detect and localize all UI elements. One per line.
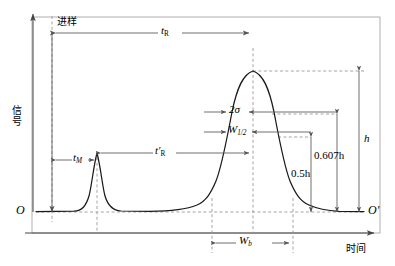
- w-half-base: W: [228, 123, 237, 135]
- tm-label: tM: [73, 152, 82, 165]
- y-axis-label: 信号: [8, 105, 23, 127]
- secondary-origin-label: O': [368, 204, 379, 216]
- chromatogram-figure: 信号 时间 O O' 进样 tR t′R tM 2σ W1/2 Wb h 0.6…: [0, 0, 395, 266]
- chromatogram-svg: [0, 0, 395, 266]
- tr-sub: R: [164, 30, 169, 38]
- wb-sub: b: [248, 240, 252, 248]
- guide-lines: [52, 16, 364, 253]
- x-axis-label: 时间: [346, 244, 366, 254]
- two-sigma-label: 2σ: [229, 104, 240, 115]
- tr-prime-sub: R: [160, 150, 165, 158]
- tr-label: tR: [161, 25, 169, 38]
- tr-prime-label: t′R: [155, 145, 165, 158]
- h-05-label: 0.5h: [291, 168, 310, 179]
- wb-label: Wb: [239, 235, 252, 248]
- injection-label: 进样: [57, 17, 77, 27]
- chromatogram-trace: [36, 71, 364, 212]
- wb-base: W: [239, 234, 248, 246]
- figure-frame: [32, 17, 380, 233]
- tm-sub: M: [76, 157, 82, 165]
- h-label: h: [364, 133, 370, 144]
- w-half-label: W1/2: [228, 124, 246, 137]
- origin-label: O: [16, 204, 25, 216]
- h-0607-label: 0.607h: [314, 150, 344, 161]
- w-half-sub: 1/2: [237, 129, 246, 137]
